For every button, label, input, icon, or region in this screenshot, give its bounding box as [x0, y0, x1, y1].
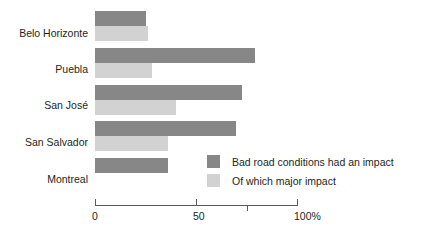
legend-item-impact: Bad road conditions had an impact — [207, 152, 394, 171]
bar-montreal-impact — [95, 158, 168, 173]
category-label-san-jose: San José — [0, 99, 88, 111]
legend: Bad road conditions had an impact Of whi… — [207, 152, 394, 190]
category-label-montreal: Montreal — [0, 173, 88, 185]
legend-label-impact: Bad road conditions had an impact — [232, 156, 394, 168]
x-tick-label-0: 0 — [92, 210, 98, 223]
legend-swatch-major — [207, 174, 220, 187]
x-tick-label-50: 50 — [193, 210, 205, 223]
x-tick-75 — [247, 205, 248, 211]
x-tick-100 — [297, 199, 298, 206]
bar-belo-horizonte-major — [95, 26, 148, 41]
bar-belo-horizonte-impact — [95, 11, 146, 26]
category-label-san-salvador: San Salvador — [0, 136, 88, 148]
x-tick-label-100: 100% — [294, 210, 321, 223]
legend-swatch-impact — [207, 155, 220, 168]
x-tick-50 — [196, 199, 197, 206]
legend-label-major: Of which major impact — [232, 175, 336, 187]
legend-item-major: Of which major impact — [207, 171, 394, 190]
bar-san-salvador-impact — [95, 121, 236, 136]
bar-chart: Belo Horizonte Puebla San José San Salva… — [0, 0, 424, 237]
bar-san-jose-major — [95, 100, 176, 115]
bar-san-salvador-major — [95, 136, 168, 151]
x-tick-0 — [95, 199, 96, 206]
category-axis: Belo Horizonte Puebla San José San Salva… — [0, 0, 88, 237]
bar-san-jose-impact — [95, 85, 242, 100]
category-label-puebla: Puebla — [0, 63, 88, 75]
bar-puebla-major — [95, 63, 152, 78]
category-label-belo-horizonte: Belo Horizonte — [0, 27, 88, 39]
bar-puebla-impact — [95, 48, 255, 63]
